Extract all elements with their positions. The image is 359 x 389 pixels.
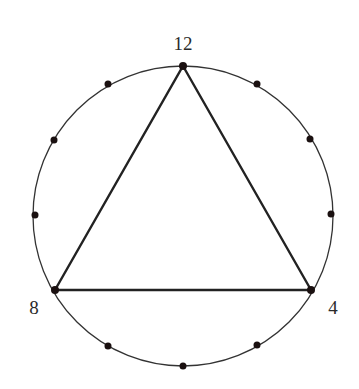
dot-8 [51, 286, 59, 294]
clock-circle [33, 66, 333, 366]
dot-7 [105, 343, 112, 350]
dot-3 [328, 211, 335, 218]
dot-12 [179, 62, 187, 70]
dot-5 [254, 342, 261, 349]
hour-dots [32, 62, 335, 370]
dot-11 [105, 81, 112, 88]
dot-4 [307, 286, 315, 294]
label-12: 12 [174, 33, 193, 54]
label-8: 8 [29, 297, 39, 318]
dot-1 [254, 81, 261, 88]
dot-6 [180, 363, 187, 370]
dot-9 [32, 212, 39, 219]
clock-triangle-diagram: 12 4 8 [0, 0, 359, 389]
dot-2 [307, 136, 314, 143]
dot-10 [51, 137, 58, 144]
triangle [55, 66, 311, 290]
label-4: 4 [328, 297, 338, 318]
